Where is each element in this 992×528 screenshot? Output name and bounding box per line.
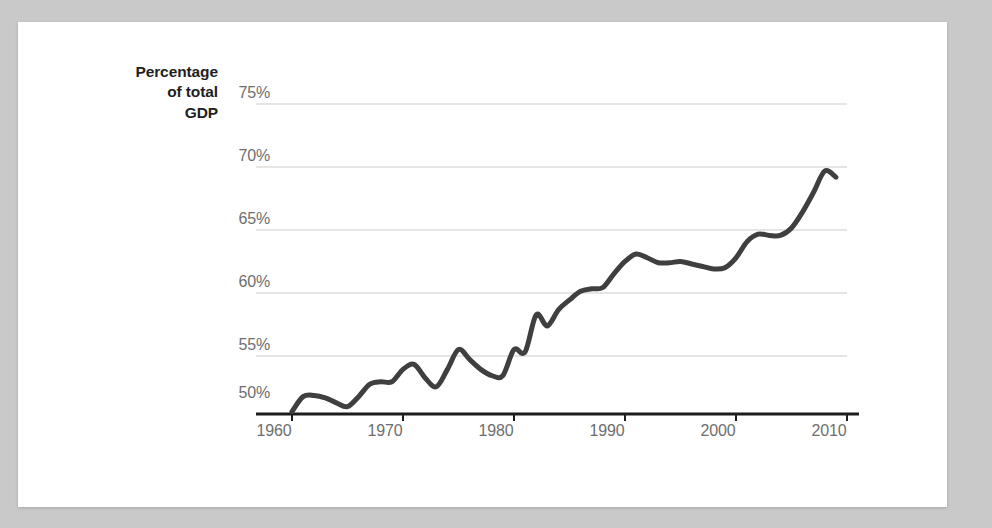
chart-card: Percentage of total GDP 75% 70% 65% 60% … xyxy=(18,22,947,507)
data-series-line xyxy=(292,170,836,411)
x-axis xyxy=(256,414,859,421)
line-chart-svg xyxy=(18,22,947,507)
chart-plot-area: Percentage of total GDP 75% 70% 65% 60% … xyxy=(18,22,947,507)
